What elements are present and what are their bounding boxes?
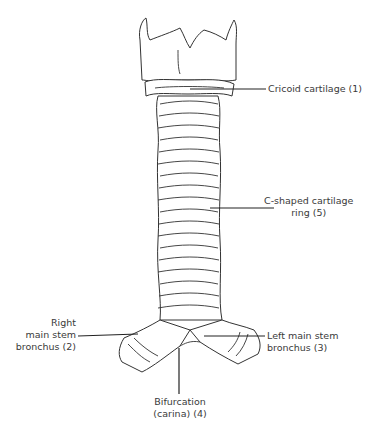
c-ring-label: C-shaped cartilage ring (5)	[264, 195, 353, 219]
right-bronchus-label-line1: Right	[10, 317, 76, 329]
left-bronchus-label-line2: bronchus (3)	[267, 342, 338, 354]
right-bronchus-label-line2: main stem	[10, 329, 76, 341]
bifurcation-label: Bifurcation (carina) (4)	[148, 396, 212, 420]
bifurcation-label-line1: Bifurcation	[148, 396, 212, 408]
right-bronchus-label: Right main stem bronchus (2)	[10, 317, 76, 353]
trachea-diagram: Cricoid cartilage (1) C-shaped cartilage…	[0, 0, 371, 430]
c-ring-label-line2: ring (5)	[264, 207, 353, 219]
c-ring-label-line1: C-shaped cartilage	[264, 195, 353, 207]
left-bronchus-label-line1: Left main stem	[267, 330, 338, 342]
left-bronchus-label: Left main stem bronchus (3)	[267, 330, 338, 354]
left-bronchus	[190, 320, 260, 364]
cricoid-label: Cricoid cartilage (1)	[268, 83, 362, 95]
thyroid-cartilage	[139, 18, 236, 81]
bifurcation-label-line2: (carina) (4)	[148, 408, 212, 420]
right-bronchus-label-line3: bronchus (2)	[10, 341, 76, 353]
